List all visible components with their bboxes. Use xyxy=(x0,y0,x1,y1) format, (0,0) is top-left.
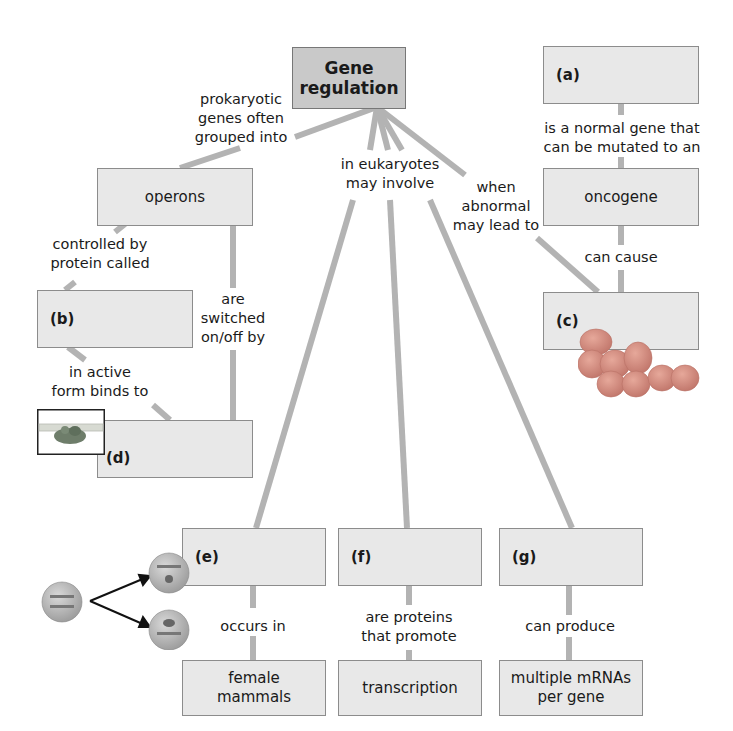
node-g-letter: (g) xyxy=(512,548,536,567)
node-operons: operons xyxy=(97,168,253,226)
node-f-letter: (f) xyxy=(351,548,371,567)
node-d: (d) xyxy=(97,420,253,478)
node-f: (f) xyxy=(338,528,482,586)
link-active-form-line2: form binds to xyxy=(45,382,155,401)
link-abnormal: when abnormal may lead to xyxy=(450,178,542,235)
link-controlled-by: controlled by protein called xyxy=(40,235,160,273)
node-transcription-label: transcription xyxy=(362,679,457,698)
node-oncogene-label: oncogene xyxy=(584,188,658,207)
link-prokaryotic: prokaryotic genes often grouped into xyxy=(188,90,294,147)
node-a: (a) xyxy=(543,46,699,104)
node-e: (e) xyxy=(182,528,326,586)
link-prokaryotic-line2: genes often xyxy=(188,109,294,128)
link-can-produce: can produce xyxy=(520,617,620,636)
link-occurs-in-text: occurs in xyxy=(220,618,285,634)
node-oncogene: oncogene xyxy=(543,168,699,226)
node-female-mammals-line1: female xyxy=(228,669,280,688)
link-switched-line3: on/off by xyxy=(198,328,268,347)
node-c-letter: (c) xyxy=(556,312,579,331)
link-can-cause-text: can cause xyxy=(584,249,657,265)
node-female-mammals: female mammals xyxy=(182,660,326,716)
link-prokaryotic-line3: grouped into xyxy=(188,128,294,147)
node-d-letter: (d) xyxy=(106,449,130,468)
node-multiple-mrnas: multiple mRNAs per gene xyxy=(499,660,643,716)
node-multiple-mrnas-line1: multiple mRNAs xyxy=(511,669,631,688)
link-controlled-by-line2: protein called xyxy=(40,254,160,273)
node-g: (g) xyxy=(499,528,643,586)
link-abnormal-line3: may lead to xyxy=(450,216,542,235)
node-e-letter: (e) xyxy=(195,548,219,567)
link-prokaryotic-line1: prokaryotic xyxy=(188,90,294,109)
node-b: (b) xyxy=(37,290,193,348)
link-proteins-promote: are proteins that promote xyxy=(350,608,468,646)
link-active-form-line1: in active xyxy=(45,363,155,382)
link-switched-line2: switched xyxy=(198,309,268,328)
node-transcription: transcription xyxy=(338,660,482,716)
node-gene-regulation: Gene regulation xyxy=(292,47,406,109)
link-switched-line1: are xyxy=(198,290,268,309)
root-label-line1: Gene xyxy=(324,58,373,78)
link-normal-gene: is a normal gene that can be mutated to … xyxy=(537,119,707,157)
link-eukaryotes: in eukaryotes may involve xyxy=(335,155,445,193)
x-inactivation-cells-illustration xyxy=(36,550,196,650)
link-can-produce-text: can produce xyxy=(525,618,615,634)
link-normal-gene-line2: can be mutated to an xyxy=(537,138,707,157)
link-can-cause: can cause xyxy=(575,248,667,267)
link-occurs-in: occurs in xyxy=(205,617,301,636)
link-proteins-promote-line1: are proteins xyxy=(350,608,468,627)
node-a-letter: (a) xyxy=(556,66,580,85)
link-normal-gene-line1: is a normal gene that xyxy=(537,119,707,138)
link-abnormal-line1: when xyxy=(450,178,542,197)
root-label-line2: regulation xyxy=(299,78,398,98)
node-operons-label: operons xyxy=(145,188,205,207)
link-abnormal-line2: abnormal xyxy=(450,197,542,216)
link-switched: are switched on/off by xyxy=(198,290,268,347)
link-eukaryotes-line2: may involve xyxy=(335,174,445,193)
node-multiple-mrnas-line2: per gene xyxy=(537,688,604,707)
link-active-form: in active form binds to xyxy=(45,363,155,401)
repressor-dna-illustration xyxy=(37,409,105,455)
node-female-mammals-line2: mammals xyxy=(217,688,291,707)
node-b-letter: (b) xyxy=(50,310,74,329)
tumor-cells-illustration xyxy=(578,322,706,404)
link-proteins-promote-line2: that promote xyxy=(350,627,468,646)
link-controlled-by-line1: controlled by xyxy=(40,235,160,254)
link-eukaryotes-line1: in eukaryotes xyxy=(335,155,445,174)
